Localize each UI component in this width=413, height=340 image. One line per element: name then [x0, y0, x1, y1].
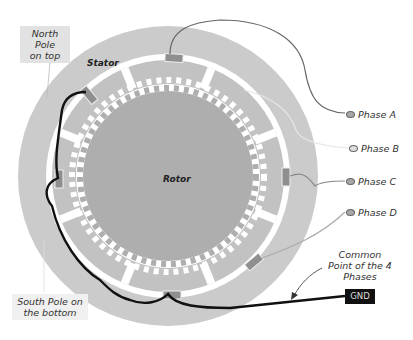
phase-c-terminal: Phase C [346, 176, 396, 187]
terminal-dot-icon [346, 111, 355, 118]
north-pole-label: North Pole on top [20, 26, 70, 63]
terminal-dot-icon [349, 145, 358, 152]
phase-b-terminal: Phase B [349, 143, 399, 154]
stepper-motor-diagram: North Pole on top South Pole on the bott… [0, 0, 413, 340]
phase-a-terminal: Phase A [346, 109, 396, 120]
common-point-label: Common Point of the 4 Phases [320, 249, 400, 282]
phase-d-terminal: Phase D [346, 207, 397, 218]
terminal-dot-icon [346, 178, 355, 185]
stator-label: Stator [87, 58, 119, 68]
south-pole-label: South Pole on the bottom [12, 294, 88, 320]
terminal-dot-icon [346, 209, 355, 216]
gnd-terminal: GND [345, 289, 375, 304]
rotor-label: Rotor [163, 174, 191, 184]
common-point-arrow [294, 268, 322, 296]
